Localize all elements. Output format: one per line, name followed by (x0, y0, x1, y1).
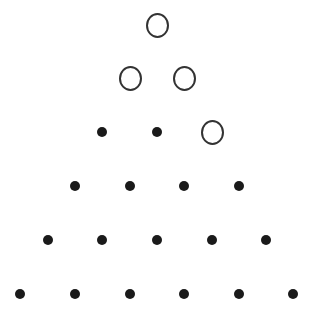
filled-dot-r5-3 (152, 235, 162, 245)
open-circle-r2-1 (119, 66, 142, 91)
filled-dot-r3-2 (152, 127, 162, 137)
filled-dot-r6-1 (15, 289, 25, 299)
filled-dot-r5-4 (207, 235, 217, 245)
filled-dot-r5-2 (97, 235, 107, 245)
filled-dot-r6-4 (179, 289, 189, 299)
filled-dot-r6-3 (125, 289, 135, 299)
filled-dot-r6-2 (70, 289, 80, 299)
filled-dot-r4-1 (70, 181, 80, 191)
filled-dot-r6-6 (288, 289, 298, 299)
open-circle-r2-2 (173, 66, 196, 91)
filled-dot-r5-1 (43, 235, 53, 245)
filled-dot-r4-3 (179, 181, 189, 191)
filled-dot-r4-4 (234, 181, 244, 191)
filled-dot-r6-5 (234, 289, 244, 299)
filled-dot-r5-5 (261, 235, 271, 245)
open-circle-r3-3 (201, 120, 224, 145)
filled-dot-r4-2 (125, 181, 135, 191)
triangular-dot-diagram (0, 0, 318, 317)
open-circle-r1-1 (146, 13, 169, 38)
filled-dot-r3-1 (97, 127, 107, 137)
